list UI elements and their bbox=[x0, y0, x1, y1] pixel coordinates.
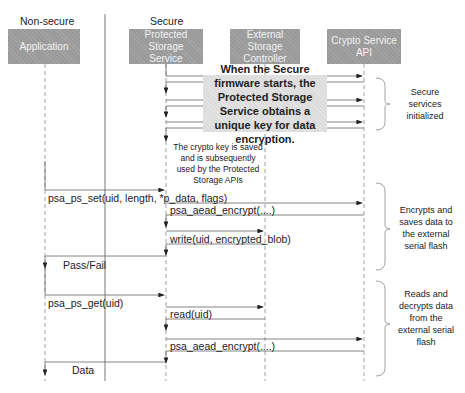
key-note: The crypto key is saved and is subsequen… bbox=[173, 142, 263, 186]
phase-label-encrypt: Encrypts and saves data to the external … bbox=[393, 204, 459, 252]
init-note: When the Secure firmware starts, the Pro… bbox=[203, 75, 327, 132]
msg-psa-aead-encrypt-1: psa_aead_encrypt(....) bbox=[170, 204, 275, 216]
msg-psa-ps-set: psa_ps_set(uid, length, *p_data, flags) bbox=[48, 192, 227, 204]
actor-protected-storage-service: Protected Storage Service bbox=[129, 29, 203, 64]
actor-external-storage-controller: External Storage Controller bbox=[230, 29, 300, 64]
brace-encrypt bbox=[376, 183, 390, 270]
actor-application-label: Application bbox=[20, 41, 69, 53]
actor-application: Application bbox=[8, 29, 80, 64]
msg-pass-fail: Pass/Fail bbox=[63, 259, 106, 271]
msg-write: write(uid, encrypted_blob) bbox=[170, 233, 291, 245]
msg-data: Data bbox=[72, 364, 94, 376]
brace-init bbox=[376, 78, 390, 130]
zone-label-non-secure: Non-secure bbox=[20, 15, 74, 27]
phase-label-init: Secure services initialized bbox=[395, 86, 455, 122]
actor-external-storage-label: External Storage Controller bbox=[232, 29, 298, 65]
actor-protected-storage-label: Protected Storage Service bbox=[131, 29, 201, 65]
actor-crypto-service-label: Crypto Service API bbox=[329, 35, 399, 59]
brace-decrypt bbox=[376, 281, 390, 376]
msg-psa-ps-get: psa_ps_get(uid) bbox=[48, 297, 123, 309]
msg-read: read(uid) bbox=[170, 308, 212, 320]
phase-label-decrypt: Reads and decrypts data from the externa… bbox=[393, 288, 459, 348]
msg-psa-aead-encrypt-2: psa_aead_encrypt(....) bbox=[170, 340, 275, 352]
zone-label-secure: Secure bbox=[150, 15, 183, 27]
actor-crypto-service-api: Crypto Service API bbox=[327, 29, 401, 64]
